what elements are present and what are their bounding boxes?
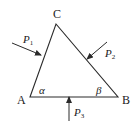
vertex-label-a: A [17, 93, 26, 107]
force-label-p2-sub: 2 [112, 53, 116, 61]
angle-label-alpha: α [39, 84, 45, 96]
force-label-p2: P2 [104, 47, 116, 61]
force-label-p3-sub: 3 [81, 112, 85, 120]
vertex-label-c: C [53, 7, 61, 21]
force-arrow-p2 [87, 42, 107, 59]
force-label-p1: P1 [22, 33, 34, 47]
angle-label-beta: β [95, 84, 102, 96]
diagram-canvas: C A B α β P1 P2 P3 [0, 0, 138, 127]
force-label-p1-sub: 1 [30, 39, 34, 47]
vertex-label-b: B [122, 93, 130, 107]
force-label-p3: P3 [73, 106, 85, 120]
triangle-force-diagram: C A B α β P1 P2 P3 [0, 0, 138, 127]
